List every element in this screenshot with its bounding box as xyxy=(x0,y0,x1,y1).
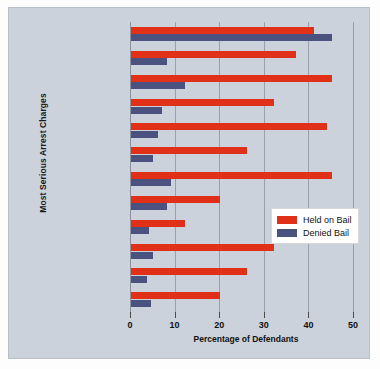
bar-held-on-bail-robbery xyxy=(131,75,332,82)
gridline-30 xyxy=(264,22,265,312)
chart-legend: Held on BailDenied Bail xyxy=(271,208,359,244)
bar-denied-bail-fraud xyxy=(131,227,149,234)
bar-held-on-bail-murder xyxy=(131,27,314,34)
chart-figure: Most Serious Arrest Charges 01020304050 … xyxy=(0,0,380,369)
legend-swatch-icon xyxy=(277,229,297,237)
bar-held-on-bail-forgery xyxy=(131,196,220,203)
bar-denied-bail-larceny-theft xyxy=(131,155,153,162)
bar-held-on-bail-burglary xyxy=(131,123,327,130)
bar-denied-bail-murder xyxy=(131,34,332,41)
bar-denied-bail-robbery xyxy=(131,82,185,89)
bar-denied-bail-motor-vehicle-theft xyxy=(131,179,171,186)
tick-label-30: 30 xyxy=(244,320,284,330)
bar-denied-bail-burglary xyxy=(131,131,158,138)
tick-label-50: 50 xyxy=(333,320,373,330)
bar-denied-bail-driving-related xyxy=(131,300,151,307)
plot-area: 01020304050 xyxy=(130,22,362,312)
bar-held-on-bail-assault xyxy=(131,99,274,106)
bar-held-on-bail-larceny-theft xyxy=(131,147,247,154)
chart-panel: Most Serious Arrest Charges 01020304050 … xyxy=(8,7,370,359)
legend-item-held-on-bail: Held on Bail xyxy=(277,213,352,226)
legend-label: Denied Bail xyxy=(303,228,349,238)
tick-20 xyxy=(219,312,220,318)
bar-held-on-bail-rape xyxy=(131,51,296,58)
legend-item-denied-bail: Denied Bail xyxy=(277,226,352,239)
legend-swatch-icon xyxy=(277,216,297,224)
tick-50 xyxy=(353,312,354,318)
bar-held-on-bail-fraud xyxy=(131,220,185,227)
bar-denied-bail-assault xyxy=(131,107,162,114)
bar-denied-bail-drug-trafficking xyxy=(131,252,153,259)
legend-label: Held on Bail xyxy=(303,215,352,225)
bar-held-on-bail-drug-trafficking xyxy=(131,244,274,251)
tick-label-40: 40 xyxy=(288,320,328,330)
gridline-40 xyxy=(308,22,309,312)
tick-label-20: 20 xyxy=(199,320,239,330)
bar-denied-bail-forgery xyxy=(131,203,167,210)
x-axis-title: Percentage of Defendants xyxy=(130,334,362,344)
bar-held-on-bail-weapons xyxy=(131,268,247,275)
y-axis-title: Most Serious Arrest Charges xyxy=(38,73,48,233)
bar-held-on-bail-driving-related xyxy=(131,292,220,299)
tick-10 xyxy=(175,312,176,318)
tick-40 xyxy=(308,312,309,318)
tick-label-0: 0 xyxy=(110,320,150,330)
tick-30 xyxy=(264,312,265,318)
gridline-50 xyxy=(353,22,354,312)
bar-denied-bail-rape xyxy=(131,58,167,65)
tick-0 xyxy=(130,312,131,318)
bar-denied-bail-weapons xyxy=(131,276,147,283)
bar-held-on-bail-motor-vehicle-theft xyxy=(131,172,332,179)
tick-label-10: 10 xyxy=(155,320,195,330)
